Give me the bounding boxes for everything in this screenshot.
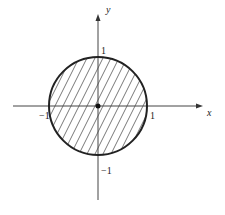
tick-label-y-pos: 1 (101, 45, 106, 56)
origin-dot (96, 104, 101, 109)
x-axis-label: x (206, 107, 212, 118)
tick-label-x-pos: 1 (150, 110, 155, 121)
y-axis-arrow-icon (96, 14, 101, 21)
unit-disk-diagram: y x 1 −1 −1 1 (0, 0, 225, 215)
tick-label-y-neg: −1 (101, 165, 112, 176)
tick-label-x-neg: −1 (39, 110, 50, 121)
y-axis-label: y (105, 4, 111, 15)
x-axis-arrow-icon (196, 104, 203, 109)
